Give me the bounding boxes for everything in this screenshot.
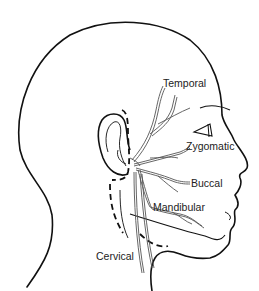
- label-mandibular: Mandibular: [153, 202, 205, 213]
- label-cervical: Cervical: [96, 251, 134, 262]
- label-zygomatic: Zygomatic: [186, 141, 234, 152]
- ear-inner: [106, 122, 126, 166]
- label-temporal: Temporal: [163, 78, 206, 89]
- ear-outline: [98, 114, 130, 175]
- facial-nerve-diagram: Temporal Zygomatic Buccal Mandibular Cer…: [0, 0, 259, 291]
- label-buccal: Buccal: [191, 178, 223, 189]
- eyebrow: [200, 106, 230, 110]
- eye: [194, 124, 212, 136]
- mouth: [225, 212, 230, 220]
